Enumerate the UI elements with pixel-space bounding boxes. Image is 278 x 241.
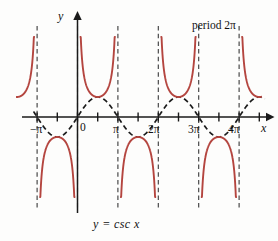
cosecant-branch — [39, 137, 75, 197]
cosecant-branch — [160, 37, 196, 97]
axes-group — [22, 11, 275, 213]
y-axis-arrowhead — [73, 11, 81, 20]
cosecant-branch — [120, 137, 156, 197]
x-axis-arrowhead — [266, 113, 275, 121]
x-tick-label: −π — [30, 124, 42, 136]
cosecant-branch — [241, 37, 262, 97]
y-axis-label: y — [58, 10, 63, 22]
cosecant-branch — [201, 137, 237, 197]
x-axis-label: x — [261, 122, 266, 134]
cosecant-branch — [80, 37, 116, 97]
csc-graph-figure: y x period 2π y = csc x −π0π2π3π4π — [0, 0, 278, 241]
x-tick-label: 2π — [148, 124, 160, 136]
x-tick-label: 0 — [80, 122, 86, 134]
period-annotation: period 2π — [192, 20, 236, 32]
x-tick-label: 4π — [228, 124, 240, 136]
cosecant-branch — [16, 37, 35, 97]
plot-canvas — [0, 0, 278, 241]
x-tick-label: 3π — [188, 124, 200, 136]
x-tick-label: π — [113, 124, 119, 136]
equation-caption: y = csc x — [93, 218, 140, 230]
